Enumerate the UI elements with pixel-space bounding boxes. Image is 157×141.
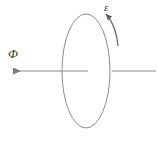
physics-diagram-figure: Φ ε	[0, 0, 157, 141]
flux-label: Φ	[8, 47, 18, 60]
diagram-canvas	[0, 0, 157, 141]
emf-label: ε	[104, 2, 108, 13]
emf-curved-arrow	[106, 14, 118, 46]
